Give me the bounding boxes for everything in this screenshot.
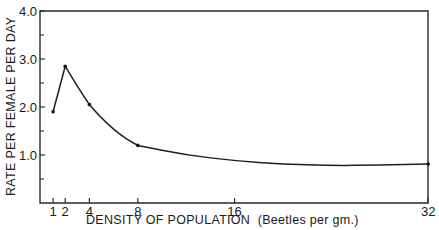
data-point <box>63 64 67 68</box>
plot-frame <box>40 11 428 203</box>
data-series <box>51 64 430 166</box>
x-axis-title: DENSITY OF POPULATION (Beetles per gm.) <box>86 213 359 227</box>
data-line <box>53 66 428 165</box>
x-tick-label: 1 <box>49 204 56 219</box>
data-point <box>426 162 430 166</box>
y-axis-title: RATE PER FEMALE PER DAY <box>4 16 18 196</box>
data-point <box>88 103 92 107</box>
y-tick-label: 4.0 <box>19 4 37 19</box>
y-tick-label: 3.0 <box>19 52 37 67</box>
x-tick-label: 2 <box>62 204 69 219</box>
line-chart: 1.02.03.04.0 12481632 DENSITY OF POPULAT… <box>0 0 439 230</box>
data-point <box>136 144 140 148</box>
y-axis-ticks: 1.02.03.04.0 <box>19 4 45 179</box>
y-tick-label: 1.0 <box>19 148 37 163</box>
data-point <box>51 110 55 114</box>
axes-box <box>40 11 428 203</box>
x-tick-label: 32 <box>421 204 435 219</box>
y-tick-label: 2.0 <box>19 100 37 115</box>
